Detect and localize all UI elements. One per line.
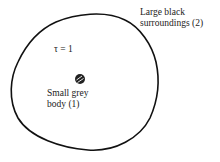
transmissivity-label: τ = 1 [54, 44, 73, 55]
body-label-line1: Small grey [47, 88, 88, 99]
surroundings-label-line1: Large black [140, 7, 203, 18]
body-label-line2: body (1) [47, 99, 88, 110]
surroundings-label: Large black surroundings (2) [140, 7, 203, 29]
surroundings-boundary [11, 14, 158, 150]
grey-body-icon [75, 74, 85, 84]
surroundings-label-line2: surroundings (2) [140, 18, 203, 29]
body-label: Small grey body (1) [47, 88, 88, 110]
